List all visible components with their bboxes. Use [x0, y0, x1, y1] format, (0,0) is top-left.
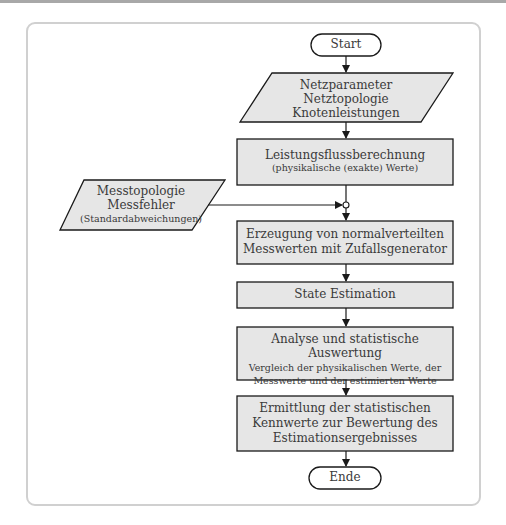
metrics-text: Ermittlung der statistischen Kennwerte z… — [237, 401, 453, 446]
metrics-line-2: Kennwerte zur Bewertung des — [237, 416, 453, 431]
analysis-sub-line-2: Messwerte und der estimierten Werte — [237, 374, 453, 387]
end-label: Ende — [309, 470, 381, 484]
input-measurement-subtitle: (Standardabweichungen) — [66, 212, 216, 226]
input-measurement-line-1: Messtopologie — [66, 184, 216, 198]
powerflow-text: Leistungsflussberechnung (physikalische … — [237, 148, 453, 174]
analysis-text: Analyse und statistische Auswertung Verg… — [237, 332, 453, 387]
input-network-line-1: Netzparameter — [256, 78, 436, 92]
generation-line-2: Messwerten mit Zufallsgenerator — [237, 242, 453, 257]
junction-node — [343, 202, 349, 208]
generation-text: Erzeugung von normalverteilten Messwerte… — [237, 227, 453, 257]
input-network-line-3: Knotenleistungen — [256, 106, 436, 120]
metrics-line-1: Ermittlung der statistischen — [237, 401, 453, 416]
input-measurement-text: Messtopologie Messfehler (Standardabweic… — [66, 184, 216, 226]
analysis-sub-line-1: Vergleich der physikalischen Werte, der — [237, 361, 453, 374]
state-estimation-label: State Estimation — [237, 287, 453, 301]
analysis-title: Analyse und statistische Auswertung — [237, 332, 453, 361]
input-network-line-2: Netztopologie — [256, 92, 436, 106]
input-measurement-line-2: Messfehler — [66, 198, 216, 212]
input-network-text: Netzparameter Netztopologie Knotenleistu… — [256, 78, 436, 120]
generation-line-1: Erzeugung von normalverteilten — [237, 227, 453, 242]
powerflow-subtitle: (physikalische (exakte) Werte) — [237, 162, 453, 173]
start-label: Start — [311, 37, 381, 51]
powerflow-title: Leistungsflussberechnung — [237, 148, 453, 162]
metrics-line-3: Estimationsergebnisses — [237, 431, 453, 446]
